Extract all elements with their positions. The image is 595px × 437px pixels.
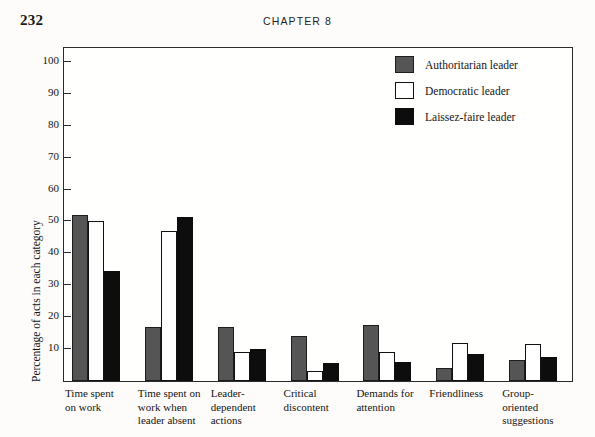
bar	[541, 357, 557, 381]
y-axis-title-text: Percentage of acts in each category	[30, 220, 42, 382]
x-axis-label-line: Time spent	[65, 387, 114, 401]
legend-label: Authoritarian leader	[425, 59, 518, 71]
bar	[104, 271, 120, 381]
x-axis-label-line: actions	[211, 414, 256, 428]
x-axis-label-line: leader absent	[138, 414, 201, 428]
x-axis-label: Group-orientedsuggestions	[502, 387, 553, 428]
x-axis-label-line: oriented	[502, 401, 553, 415]
bar	[436, 368, 452, 381]
legend-label: Democratic leader	[425, 85, 510, 97]
y-tick-label-30: 30	[48, 277, 59, 289]
y-tick-label-40: 40	[48, 245, 59, 257]
bar	[509, 360, 525, 381]
x-axis-label: Leader-dependentactions	[211, 387, 256, 428]
y-tick-label-50: 50	[48, 213, 59, 225]
running-head: CHAPTER 8	[0, 15, 595, 27]
x-axis-label-line: Friendliness	[429, 387, 483, 401]
bar	[234, 352, 250, 381]
y-tick-label-70: 70	[48, 150, 59, 162]
bar	[379, 352, 395, 381]
bar	[145, 327, 161, 381]
bar	[452, 343, 468, 381]
legend-swatch-authoritarian-icon	[395, 56, 414, 73]
bar	[72, 215, 88, 381]
x-axis-label: Criticaldiscontent	[284, 387, 329, 414]
bar	[525, 344, 541, 381]
y-tick-label-10: 10	[48, 341, 59, 353]
x-axis-label-line: Time spent on	[138, 387, 201, 401]
bar	[291, 336, 307, 381]
x-axis-label-line: discontent	[284, 401, 329, 415]
figure-page: 232 CHAPTER 8 Percentage of acts in each…	[0, 0, 595, 437]
bar	[88, 221, 104, 381]
legend-label: Laissez-faire leader	[425, 111, 515, 123]
bar	[323, 363, 339, 381]
x-axis-label-line: on work	[65, 401, 114, 415]
bar	[177, 217, 193, 381]
x-axis-label-line: work when	[138, 401, 201, 415]
y-tick-label-90: 90	[48, 86, 59, 98]
legend-swatch-laissez-faire-icon	[395, 108, 414, 125]
x-axis-label: Time spenton work	[65, 387, 114, 414]
y-tick-label-20: 20	[48, 309, 59, 321]
x-axis-label-line: Group-	[502, 387, 553, 401]
x-axis-label: Demands forattention	[356, 387, 413, 414]
y-tick-label-60: 60	[48, 182, 59, 194]
legend-swatch-democratic-icon	[395, 82, 414, 99]
legend-item: Democratic leader	[395, 82, 518, 99]
bar	[307, 371, 323, 381]
y-tick-label-100: 100	[43, 54, 60, 66]
x-axis-label-line: Critical	[284, 387, 329, 401]
bar	[250, 349, 266, 381]
x-axis-label-line: suggestions	[502, 414, 553, 428]
bar	[363, 325, 379, 381]
legend-item: Authoritarian leader	[395, 56, 518, 73]
y-tick-label-80: 80	[48, 118, 59, 130]
x-axis-label: Friendliness	[429, 387, 483, 401]
bar	[468, 354, 484, 381]
bar	[395, 362, 411, 381]
x-axis-label-line: Demands for	[356, 387, 413, 401]
legend: Authoritarian leaderDemocratic leaderLai…	[395, 56, 518, 125]
x-axis-labels: Time spenton workTime spent onwork whenl…	[63, 387, 573, 435]
bar	[218, 327, 234, 381]
x-axis-label-line: attention	[356, 401, 413, 415]
bar	[161, 231, 177, 381]
x-axis-label-line: Leader-	[211, 387, 256, 401]
x-axis-label-line: dependent	[211, 401, 256, 415]
x-axis-label: Time spent onwork whenleader absent	[138, 387, 201, 428]
legend-item: Laissez-faire leader	[395, 108, 518, 125]
